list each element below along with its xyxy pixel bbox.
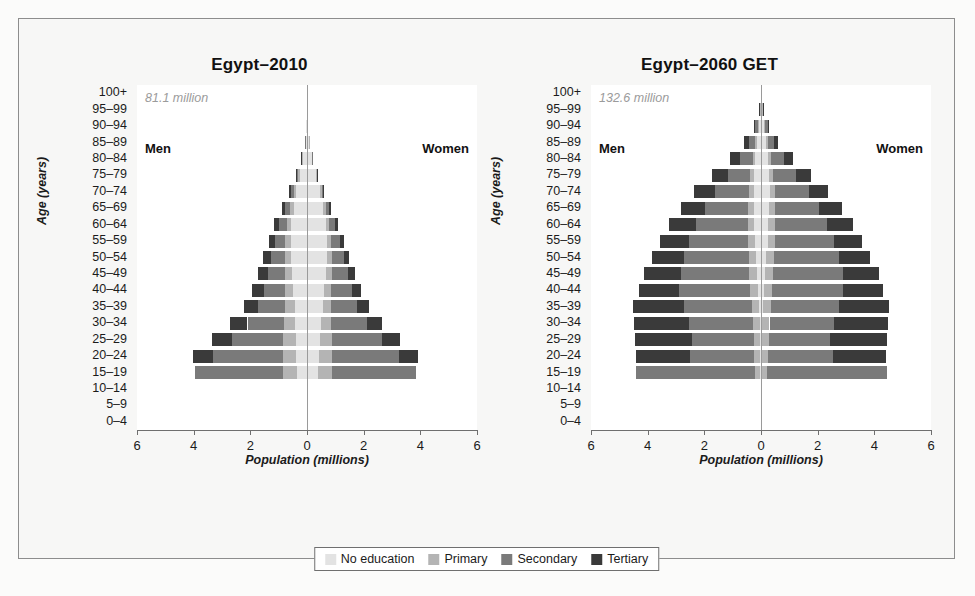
legend-item[interactable]: No education [325, 552, 415, 566]
bar-segment-women [774, 136, 778, 149]
x-axis-tick [874, 430, 875, 435]
bar-segment-women [839, 300, 889, 313]
bar-segment-women [839, 251, 870, 264]
age-group-label: 55–59 [546, 234, 581, 247]
bar-segment-men [728, 169, 750, 182]
bar-segment-men [644, 267, 681, 280]
x-axis-tick-label: 4 [190, 438, 197, 453]
x-axis-tick [364, 430, 365, 435]
bar-segment-men [244, 300, 258, 313]
bar-segment-women [833, 350, 886, 363]
bar-segment-men [212, 333, 232, 346]
bar-segment-men [740, 152, 753, 165]
legend-item[interactable]: Tertiary [591, 552, 648, 566]
bar-segment-women [761, 152, 768, 165]
bar-segment-men [294, 202, 307, 215]
bar-segment-women [340, 235, 344, 248]
bar-segment-women [329, 202, 330, 215]
x-axis-title-right: Population (millions) [591, 453, 931, 467]
legend-label: Primary [444, 552, 487, 566]
age-group-label: 90–94 [546, 119, 581, 132]
legend-item[interactable]: Primary [428, 552, 487, 566]
age-group-label: 30–34 [546, 316, 581, 329]
bar-segment-men [635, 333, 692, 346]
bar-segment-women [762, 317, 769, 330]
bar-segment-men [748, 235, 755, 248]
legend-item[interactable]: Secondary [501, 552, 577, 566]
bar-segment-women [771, 300, 839, 313]
x-axis-tick-label: 2 [360, 438, 367, 453]
bar-segment-women [761, 218, 768, 231]
bar-segment-men [712, 169, 728, 182]
age-group-label: 40–44 [92, 283, 127, 296]
age-group-label: 45–49 [92, 267, 127, 280]
x-axis-tick-label: 4 [871, 438, 878, 453]
legend-swatch-icon [591, 554, 602, 565]
bar-segment-men [634, 317, 689, 330]
bar-segment-women [770, 317, 834, 330]
bar-segment-men [681, 202, 705, 215]
x-axis-tick-label: 2 [701, 438, 708, 453]
bar-segment-women [335, 218, 338, 231]
bar-segment-women [331, 300, 357, 313]
panel-egypt-2010: Egypt–2010 Age (years) 100+95–9990–9485–… [41, 55, 478, 525]
bar-segment-women [843, 284, 883, 297]
x-axis-tick [931, 430, 932, 435]
bar-segment-men [283, 350, 297, 363]
bar-segment-men [755, 136, 757, 149]
bar-segment-men [301, 152, 302, 165]
bar-segment-men [195, 366, 283, 379]
bar-segment-women [332, 251, 344, 264]
bar-segment-men [749, 251, 756, 264]
age-group-label: 55–59 [92, 234, 127, 247]
x-axis-tick [250, 430, 251, 435]
legend-label: No education [341, 552, 415, 566]
age-group-label: 65–69 [92, 201, 127, 214]
age-group-label: 25–29 [92, 333, 127, 346]
bar-segment-men [258, 267, 268, 280]
x-axis-tick-label: 4 [644, 438, 651, 453]
bar-segment-men [753, 152, 756, 165]
bar-segment-women [809, 185, 829, 198]
bar-segment-men [300, 169, 307, 182]
x-axis-left: 6420246 [137, 430, 477, 431]
bar-segment-women [307, 202, 323, 215]
bar-segment-women [357, 300, 369, 313]
age-group-label: 35–39 [92, 300, 127, 313]
bar-segment-women [323, 300, 332, 313]
plot-area-left: 81.1 million Men Women [137, 85, 477, 430]
bar-segment-women [307, 235, 327, 248]
bar-segment-women [318, 366, 332, 379]
age-group-label: 100+ [553, 86, 581, 99]
age-group-label: 70–74 [546, 185, 581, 198]
bar-segment-women [307, 333, 320, 346]
bar-segment-women [323, 185, 324, 198]
legend-swatch-icon [428, 554, 439, 565]
bar-segment-men [705, 202, 748, 215]
bar-segment-men [749, 185, 754, 198]
bar-segment-men [660, 235, 689, 248]
bar-segment-women [307, 350, 319, 363]
chart-title-left: Egypt–2010 [41, 55, 478, 75]
bar-segment-men [297, 366, 307, 379]
bar-segment-men [285, 202, 290, 215]
bar-segment-women [761, 169, 769, 182]
age-group-label: 85–89 [92, 136, 127, 149]
bar-segment-women [772, 284, 843, 297]
bar-segment-women [332, 350, 399, 363]
center-axis-left [307, 85, 308, 430]
bar-segment-men [283, 366, 298, 379]
bar-segment-men [754, 218, 761, 231]
bar-segment-men [264, 284, 286, 297]
bar-segment-men [284, 317, 295, 330]
age-group-label: 5–9 [560, 398, 581, 411]
age-group-label: 90–94 [92, 119, 127, 132]
age-group-label: 80–84 [546, 152, 581, 165]
bar-segment-men [232, 333, 284, 346]
legend-swatch-icon [325, 554, 336, 565]
bar-segment-men [758, 120, 759, 133]
y-axis-labels-right: 100+95–9990–9485–8980–8475–7970–7465–696… [487, 85, 585, 430]
bar-segment-men [258, 300, 285, 313]
panel-egypt-2060-get: Egypt–2060 GET Age (years) 100+95–9990–9… [487, 55, 932, 525]
bar-segment-women [399, 350, 418, 363]
